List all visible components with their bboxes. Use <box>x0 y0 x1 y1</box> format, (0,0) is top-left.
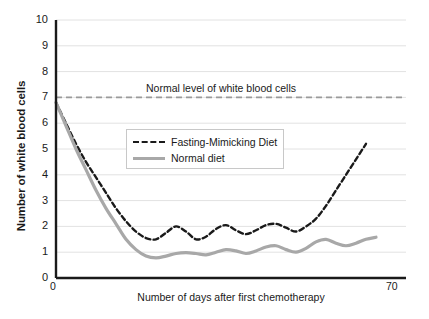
legend: Fasting-Mimicking Diet Normal diet <box>126 129 284 169</box>
legend-item-fasting: Fasting-Mimicking Diet <box>133 134 277 150</box>
normal-level-annotation-text: Normal level of white blood cells <box>146 82 296 94</box>
y-tick-0: 0 <box>22 272 48 283</box>
series-line-normal <box>56 103 376 258</box>
data-series-layer <box>56 103 376 258</box>
legend-item-normal: Normal diet <box>133 150 277 166</box>
y-axis-title: Number of white blood cells <box>15 41 27 271</box>
legend-swatch-solid-icon <box>133 157 165 160</box>
x-axis-title: Number of days after first chemotherapy <box>56 291 406 303</box>
y-tick-10: 10 <box>22 14 48 25</box>
chart-container: 109876543210 0 70 Number of white blood … <box>0 0 429 319</box>
legend-swatch-dashed-icon <box>133 141 165 143</box>
x-tick-0: 0 <box>50 281 56 292</box>
legend-label-normal: Normal diet <box>171 152 225 164</box>
legend-label-fasting: Fasting-Mimicking Diet <box>171 136 277 148</box>
